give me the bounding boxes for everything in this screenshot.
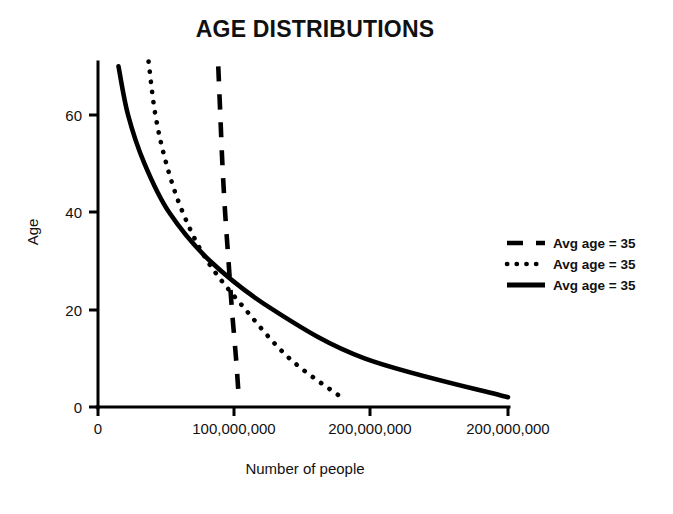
legend-label-1: Avg age = 35	[553, 257, 636, 272]
y-tick-label-0: 0	[74, 399, 82, 416]
x-axis-title: Number of people	[245, 460, 364, 477]
chart-plot-area: 60 40 20 0 Age 0 100,000,000 200,000,000…	[0, 0, 673, 514]
series-line-solid	[119, 66, 509, 397]
series-line-dotted	[149, 61, 342, 397]
y-tick-label-60: 60	[65, 107, 82, 124]
chart-legend: Avg age = 35 Avg age = 35 Avg age = 35	[507, 236, 636, 293]
y-axis-title: Age	[24, 219, 41, 246]
legend-label-2: Avg age = 35	[553, 278, 636, 293]
x-tick-label-1: 100,000,000	[192, 420, 275, 437]
chart-figure: AGE DISTRIBUTIONS 60 40 20 0 Age 0 100,0	[0, 0, 673, 514]
series-line-dashed	[218, 66, 239, 397]
y-tick-label-20: 20	[65, 302, 82, 319]
y-tick-label-40: 40	[65, 204, 82, 221]
x-tick-label-0: 0	[94, 420, 102, 437]
x-tick-label-3: 200,000,000	[466, 420, 549, 437]
x-tick-label-2: 200,000,000	[328, 420, 411, 437]
legend-label-0: Avg age = 35	[553, 236, 636, 251]
